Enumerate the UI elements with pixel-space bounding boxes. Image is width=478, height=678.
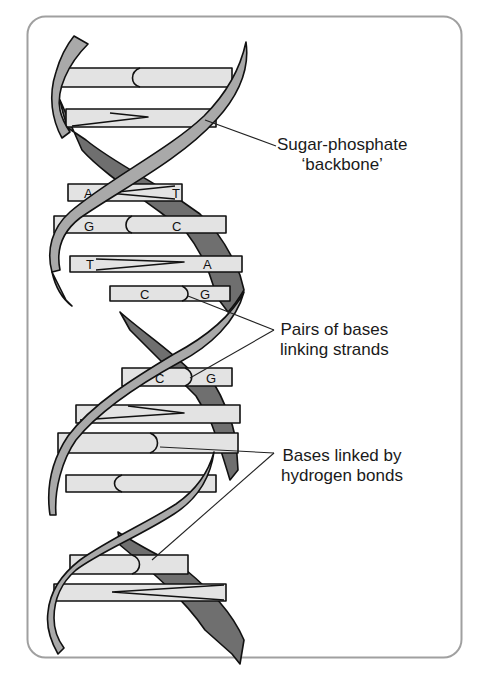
hydrogen-bonds-label: Bases linked by hydrogen bonds <box>281 446 403 486</box>
svg-text:A: A <box>203 257 212 272</box>
svg-text:G: G <box>206 371 216 386</box>
base-pair-6: C G <box>110 286 230 302</box>
dna-helix-diagram: A T G C T A C G <box>0 0 478 678</box>
base-pair-12 <box>54 584 226 601</box>
svg-text:T: T <box>86 257 94 272</box>
base-pair-5: T A <box>70 256 242 272</box>
backbone-label: Sugar-phosphate ‘backbone’ <box>277 135 407 175</box>
svg-text:G: G <box>200 287 210 302</box>
base-pair-1 <box>60 68 232 87</box>
svg-text:C: C <box>140 287 149 302</box>
svg-text:T: T <box>172 186 180 201</box>
svg-text:C: C <box>172 219 181 234</box>
svg-text:G: G <box>84 219 94 234</box>
base-pairs-label: Pairs of bases linking strands <box>280 320 389 360</box>
